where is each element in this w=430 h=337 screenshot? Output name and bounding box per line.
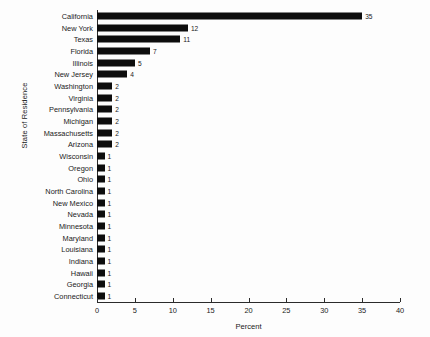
bar-value-label: 1 [108, 246, 112, 253]
category-label: North Carolina [45, 187, 93, 196]
x-tick-label: 35 [358, 306, 366, 315]
bar [97, 117, 112, 124]
x-tick [324, 298, 325, 302]
y-axis-title: State of Residence [20, 55, 29, 175]
x-tick-label: 5 [133, 306, 137, 315]
bar-value-label: 2 [115, 117, 119, 124]
bar-row: Maryland1 [97, 232, 400, 244]
x-tick [400, 298, 401, 302]
bar-row: Louisiana1 [97, 244, 400, 256]
category-label: Connecticut [54, 292, 93, 301]
bar-row: New Mexico1 [97, 197, 400, 209]
bar-row: Wisconsin1 [97, 150, 400, 162]
x-tick-label: 20 [244, 306, 252, 315]
bar-value-label: 1 [108, 269, 112, 276]
x-tick [97, 298, 98, 302]
bar [97, 59, 135, 66]
x-tick [173, 298, 174, 302]
bar-row: Arizona2 [97, 138, 400, 150]
bar-row: Pennsylvania2 [97, 103, 400, 115]
category-label: Pennsylvania [49, 105, 93, 114]
bar [97, 129, 112, 136]
bar [97, 258, 105, 265]
bar-value-label: 1 [108, 293, 112, 300]
bar [97, 246, 105, 253]
bar-value-label: 2 [115, 106, 119, 113]
bar-row: Ohio1 [97, 174, 400, 186]
bar [97, 82, 112, 89]
bar [97, 269, 105, 276]
bar-row: Minnesota1 [97, 220, 400, 232]
bar [97, 106, 112, 113]
bar-row: Virginia2 [97, 92, 400, 104]
category-label: New Mexico [53, 198, 93, 207]
bar [97, 94, 112, 101]
bar-value-label: 2 [115, 82, 119, 89]
x-tick [211, 298, 212, 302]
bar [97, 293, 105, 300]
plot-area: California35New York12Texas11Florida7Ill… [97, 10, 400, 302]
category-label: Indiana [69, 257, 93, 266]
bar-row: Massachusetts2 [97, 127, 400, 139]
bar-row: New York12 [97, 22, 400, 34]
bar [97, 188, 105, 195]
bar [97, 211, 105, 218]
category-label: Massachusetts [44, 128, 93, 137]
category-label: Washington [54, 81, 93, 90]
category-label: Louisiana [61, 245, 93, 254]
bar-row: Hawaii1 [97, 267, 400, 279]
bar-value-label: 1 [108, 164, 112, 171]
category-label: New York [62, 23, 93, 32]
bar [97, 176, 105, 183]
bar-value-label: 2 [115, 141, 119, 148]
category-label: Ohio [77, 175, 93, 184]
category-label: New Jersey [54, 70, 93, 79]
bar-row: Indiana1 [97, 255, 400, 267]
category-label: Georgia [67, 280, 93, 289]
bar-value-label: 11 [183, 36, 190, 43]
category-label: Nevada [68, 210, 93, 219]
bar-row: California35 [97, 10, 400, 22]
category-label: Florida [70, 46, 93, 55]
bar-row: Georgia1 [97, 279, 400, 291]
bar-value-label: 5 [138, 59, 142, 66]
x-axis-line [97, 302, 400, 303]
bar [97, 234, 105, 241]
bar [97, 164, 105, 171]
x-tick [362, 298, 363, 302]
x-tick [135, 298, 136, 302]
bar-chart: State of Residence California35New York1… [0, 0, 430, 337]
bar [97, 24, 188, 31]
bar [97, 141, 112, 148]
x-tick [249, 298, 250, 302]
bar-value-label: 4 [130, 71, 134, 78]
bar-value-label: 1 [108, 223, 112, 230]
bar-row: Texas11 [97, 33, 400, 45]
x-tick-label: 30 [320, 306, 328, 315]
bar-value-label: 1 [108, 176, 112, 183]
bar-row: Michigan2 [97, 115, 400, 127]
x-tick [286, 298, 287, 302]
category-label: Illinois [72, 58, 93, 67]
category-label: Minnesota [59, 222, 93, 231]
bar [97, 223, 105, 230]
x-tick-label: 0 [95, 306, 99, 315]
bar-row: Nevada1 [97, 209, 400, 221]
bar-value-label: 2 [115, 94, 119, 101]
bar [97, 71, 127, 78]
bar [97, 47, 150, 54]
bar-row: Washington2 [97, 80, 400, 92]
bar-value-label: 7 [153, 47, 157, 54]
bar-value-label: 1 [108, 152, 112, 159]
bar-value-label: 1 [108, 211, 112, 218]
category-label: Maryland [63, 233, 93, 242]
bar [97, 281, 105, 288]
category-label: Oregon [68, 163, 93, 172]
bar-row: Oregon1 [97, 162, 400, 174]
bar-value-label: 1 [108, 188, 112, 195]
bar-row: New Jersey4 [97, 68, 400, 80]
category-label: Arizona [68, 140, 93, 149]
category-label: Virginia [68, 93, 93, 102]
category-label: California [62, 11, 93, 20]
category-label: Wisconsin [59, 151, 93, 160]
